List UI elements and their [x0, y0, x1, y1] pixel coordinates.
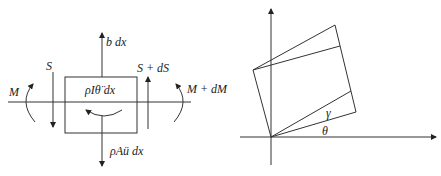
rotary-inertia-arrow-icon: [86, 110, 122, 116]
shear-angle-label: γ: [326, 106, 331, 120]
rotation-angle-label: θ: [322, 124, 328, 138]
translational-inertia-label: ρAü dx: [109, 144, 144, 158]
top-reference-line: [253, 46, 340, 70]
body-force-label: b dx: [106, 35, 127, 49]
shear-right-label: S + dS: [137, 61, 169, 75]
moment-left-arrow-icon: [26, 84, 35, 122]
moment-left-label: M: [8, 85, 20, 99]
diagram-canvas: b dx ρAü dx ρIθ̈ dx S S + dS M M + dM γ …: [0, 0, 441, 176]
deformation-geometry-diagram: γ θ: [240, 9, 436, 165]
shear-left-label: S: [46, 59, 52, 73]
bottom-reference-line: [271, 91, 351, 137]
deformed-element-outline: [253, 25, 356, 137]
moment-right-label: M + dM: [186, 82, 228, 96]
moment-right-arrow-icon: [174, 84, 183, 122]
rotary-inertia-label: ρIθ̈ dx: [84, 83, 116, 97]
beam-free-body-diagram: b dx ρAü dx ρIθ̈ dx S S + dS M M + dM: [8, 33, 228, 166]
